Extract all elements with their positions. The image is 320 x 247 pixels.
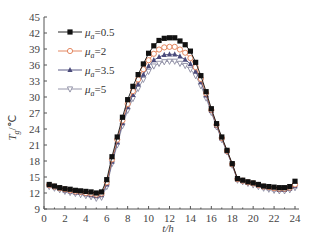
- svg-text:μa=0.5: μa=0.5: [84, 26, 115, 41]
- temperature-chart: 0246810121416182022249121518212427303336…: [0, 0, 320, 247]
- legend-item: μa=2: [58, 45, 106, 60]
- x-tick-label: 10: [143, 212, 155, 224]
- svg-text:μa=2: μa=2: [84, 45, 106, 60]
- svg-text:Tg/℃: Tg/℃: [6, 115, 21, 140]
- x-tick-label: 2: [62, 212, 68, 224]
- y-tick-label: 42: [29, 27, 40, 39]
- legend-item: μa=3.5: [58, 64, 115, 79]
- x-tick-label: 20: [248, 212, 260, 224]
- y-tick-label: 21: [29, 139, 40, 151]
- y-tick-label: 30: [29, 91, 41, 103]
- legend: μa=0.5μa=2μa=3.5μa=5: [58, 26, 115, 98]
- y-tick-label: 18: [29, 155, 41, 167]
- x-tick-label: 14: [185, 212, 197, 224]
- x-tick-label: 6: [104, 212, 110, 224]
- y-tick-label: 12: [29, 187, 40, 199]
- series-group: [47, 35, 298, 201]
- y-tick-label: 36: [29, 59, 41, 71]
- y-tick-label: 15: [29, 171, 41, 183]
- y-tick-label: 39: [29, 43, 41, 55]
- series-line: [47, 59, 298, 201]
- x-tick-label: 8: [125, 212, 131, 224]
- y-tick-label: 45: [29, 11, 41, 23]
- y-tick-label: 27: [29, 107, 41, 119]
- y-tick-label: 33: [29, 75, 41, 87]
- x-axis-label: t/h: [162, 222, 174, 234]
- legend-item: μa=0.5: [58, 26, 115, 41]
- legend-item: μa=5: [58, 83, 107, 98]
- y-axis-label: Tg/℃: [6, 115, 21, 140]
- x-tick-label: 4: [83, 212, 89, 224]
- x-tick-label: 18: [227, 212, 239, 224]
- y-tick-label: 24: [29, 123, 41, 135]
- svg-text:μa=3.5: μa=3.5: [84, 64, 115, 79]
- svg-text:μa=5: μa=5: [84, 83, 107, 98]
- x-tick-label: 22: [269, 212, 280, 224]
- x-tick-label: 24: [290, 212, 302, 224]
- x-tick-label: 16: [206, 212, 218, 224]
- x-tick-label: 0: [41, 212, 47, 224]
- y-tick-label: 9: [35, 203, 41, 215]
